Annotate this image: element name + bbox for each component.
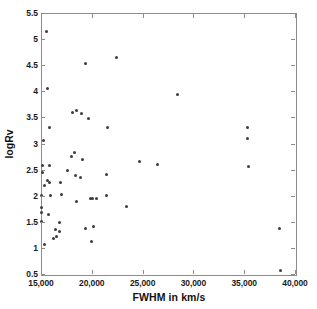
data-point: [87, 117, 90, 120]
data-point: [105, 173, 108, 176]
y-tick-label: 2: [33, 191, 38, 201]
data-point: [48, 164, 51, 167]
data-point: [47, 213, 50, 216]
data-point: [54, 228, 57, 231]
y-tick-mark-right: [291, 91, 295, 92]
data-point: [91, 197, 94, 200]
y-tick-mark-right: [291, 274, 295, 275]
data-point: [74, 174, 77, 177]
data-point: [41, 171, 44, 174]
data-point: [59, 181, 62, 184]
data-point: [43, 184, 46, 187]
data-point: [92, 225, 95, 228]
y-tick-label: 2.5: [26, 165, 38, 175]
data-point: [70, 155, 73, 158]
data-point: [48, 126, 51, 129]
y-tick-mark: [41, 65, 45, 66]
clipped-caption-text: · · · · · · · · · · · · · · · ·: [14, 0, 317, 3]
x-tick-mark: [244, 270, 245, 274]
y-tick-mark-right: [291, 144, 295, 145]
y-tick-mark: [41, 248, 45, 249]
y-tick-mark-right: [291, 170, 295, 171]
y-tick-mark: [41, 170, 45, 171]
y-tick-mark: [41, 274, 45, 275]
data-point: [45, 30, 48, 33]
y-tick-label: 4: [33, 86, 38, 96]
data-point: [106, 126, 109, 129]
y-tick-mark: [41, 117, 45, 118]
x-tick-mark-top: [143, 14, 144, 18]
x-tick-mark: [295, 270, 296, 274]
data-point: [58, 221, 61, 224]
x-tick-label: 40,000: [282, 278, 307, 288]
data-point: [41, 164, 44, 167]
data-point: [115, 56, 118, 59]
data-point: [246, 137, 249, 140]
data-point: [66, 169, 69, 172]
y-tick-mark-right: [291, 65, 295, 66]
x-tick-mark: [92, 270, 93, 274]
clipped-caption-strip: · · · · · · · · · · · · · · · ·: [0, 0, 317, 6]
data-point: [75, 200, 78, 203]
x-tick-mark-top: [295, 14, 296, 18]
x-tick-mark-top: [92, 14, 93, 18]
x-tick-mark: [143, 270, 144, 274]
x-tick-label: 30,000: [181, 278, 206, 288]
data-point: [75, 109, 78, 112]
y-tick-mark: [41, 39, 45, 40]
y-tick-label: 4.5: [26, 60, 38, 70]
y-axis-title-text: logRv: [3, 129, 15, 158]
y-tick-mark: [41, 144, 45, 145]
data-point: [52, 237, 55, 240]
data-point: [79, 176, 82, 179]
y-tick-mark-right: [291, 222, 295, 223]
data-point: [84, 62, 87, 65]
data-point: [48, 181, 51, 184]
y-tick-mark-right: [291, 196, 295, 197]
x-tick-mark: [193, 270, 194, 274]
data-point: [156, 163, 159, 166]
plot-frame: [41, 13, 297, 276]
data-point: [46, 87, 49, 90]
y-tick-label: 1: [33, 243, 38, 253]
data-point: [95, 197, 98, 200]
data-point: [176, 93, 179, 96]
y-tick-mark: [41, 222, 45, 223]
y-tick-label: 3: [33, 139, 38, 149]
y-tick-mark: [41, 91, 45, 92]
data-point: [125, 205, 128, 208]
y-tick-mark: [41, 196, 45, 197]
data-point: [42, 139, 45, 142]
data-point: [40, 206, 43, 209]
data-point: [279, 269, 282, 272]
y-tick-label: 1.5: [26, 217, 38, 227]
data-point: [60, 193, 63, 196]
x-tick-label: 25,000: [130, 278, 155, 288]
scatter-plot-figure: · · · · · · · · · · · · · · · · 15,00020…: [0, 0, 317, 309]
x-axis-title: FWHM in km/s: [41, 291, 297, 303]
y-tick-mark: [41, 13, 45, 14]
x-tick-label: 35,000: [231, 278, 256, 288]
y-tick-label: 5.5: [26, 8, 38, 18]
x-tick-label: 15,000: [28, 278, 53, 288]
data-point: [40, 211, 43, 214]
y-tick-label: 5: [33, 34, 38, 44]
data-point: [49, 194, 52, 197]
data-point: [43, 243, 46, 246]
x-tick-mark-top: [41, 14, 42, 18]
data-point: [55, 235, 58, 238]
data-point: [84, 227, 87, 230]
y-tick-mark-right: [291, 39, 295, 40]
y-tick-mark-right: [291, 248, 295, 249]
y-tick-mark-right: [291, 117, 295, 118]
x-tick-label: 20,000: [79, 278, 104, 288]
data-point: [71, 111, 74, 114]
data-points-layer: [42, 14, 296, 275]
data-point: [90, 240, 93, 243]
y-axis-title: logRv: [2, 0, 16, 309]
x-tick-mark-top: [244, 14, 245, 18]
data-point: [73, 151, 76, 154]
y-tick-label: 0.5: [26, 269, 38, 279]
data-point: [138, 160, 141, 163]
data-point: [58, 230, 61, 233]
